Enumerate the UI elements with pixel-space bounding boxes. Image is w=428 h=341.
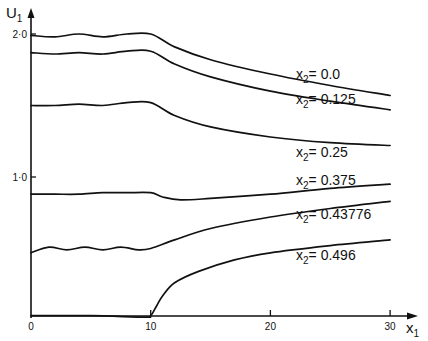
x-tick-label: 10 bbox=[145, 321, 157, 332]
series-curve-x2-0-25 bbox=[31, 102, 390, 146]
y-tick-label: 1·0 bbox=[13, 172, 28, 183]
x-axis-label: x1 bbox=[406, 319, 420, 339]
series-label: x2= 0.125 bbox=[296, 91, 356, 110]
x-tick-label: 20 bbox=[265, 321, 277, 332]
axes bbox=[28, 8, 419, 320]
series-label: x2= 0.43776 bbox=[296, 206, 371, 225]
y-tick-label: 2·0 bbox=[13, 29, 28, 40]
series-label: x2= 0.25 bbox=[296, 144, 348, 163]
x-tick-label: 0 bbox=[28, 321, 34, 332]
series-labels: x2= 0.0x2= 0.125x2= 0.25x2= 0.375x2= 0.4… bbox=[296, 66, 371, 266]
y-axis-label: U1 bbox=[6, 4, 23, 24]
series-curve-x2-0-0 bbox=[31, 33, 390, 96]
series-label: x2= 0.0 bbox=[296, 66, 340, 85]
line-chart: 01020301·02·0 x2= 0.0x2= 0.125x2= 0.25x2… bbox=[0, 0, 428, 341]
y-axis-arrow-icon bbox=[28, 8, 35, 18]
x-tick-label: 30 bbox=[385, 321, 397, 332]
series-label: x2= 0.496 bbox=[296, 247, 356, 266]
